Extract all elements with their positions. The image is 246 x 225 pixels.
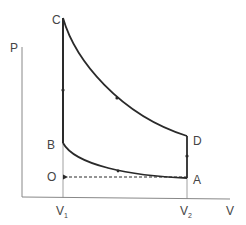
pv-diagram: P V C B O D A V 1 V 2 bbox=[0, 0, 246, 225]
arrow-d-a-icon bbox=[185, 154, 188, 157]
v-axis-label: V bbox=[226, 204, 234, 218]
v2-subscript: 2 bbox=[188, 212, 192, 219]
v2-label: V bbox=[180, 204, 188, 218]
v-axis bbox=[22, 197, 230, 199]
v1-subscript: 1 bbox=[64, 212, 68, 219]
p-axis-label: P bbox=[10, 41, 18, 55]
point-o-label: O bbox=[47, 170, 56, 184]
process-a-b bbox=[63, 143, 187, 178]
v1-label: V bbox=[56, 204, 64, 218]
arrow-a-b-icon bbox=[117, 170, 120, 173]
point-a-label: A bbox=[193, 173, 201, 187]
point-b-label: B bbox=[47, 138, 55, 152]
arrow-c-d-icon bbox=[115, 96, 118, 99]
arrow-b-c-icon bbox=[61, 88, 64, 91]
point-c-label: C bbox=[52, 13, 61, 27]
point-d-label: D bbox=[193, 134, 202, 148]
process-c-d bbox=[63, 18, 187, 136]
